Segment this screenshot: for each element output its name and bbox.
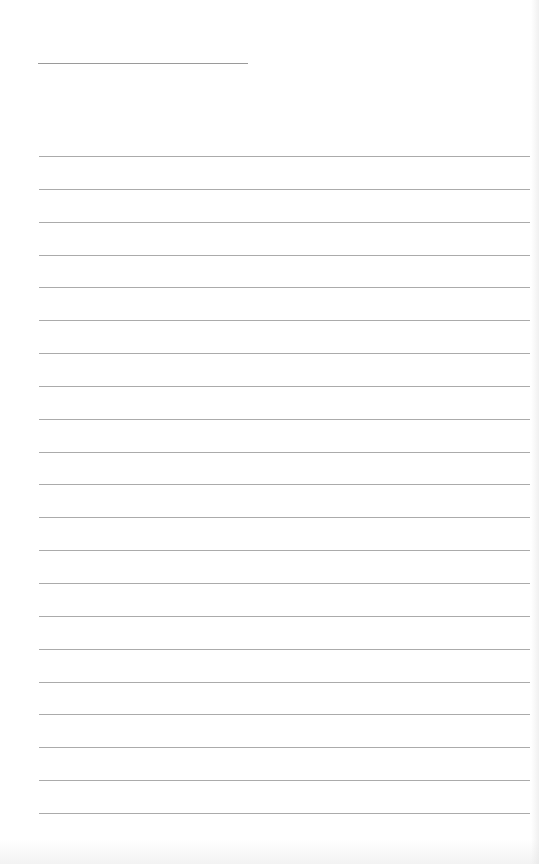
writing-line <box>39 386 530 419</box>
title-line <box>38 63 248 64</box>
writing-line <box>39 353 530 386</box>
page-edge-shadow-right <box>531 0 539 864</box>
writing-line <box>39 222 530 255</box>
writing-line <box>39 780 530 813</box>
page-edge-shadow-bottom <box>0 840 539 864</box>
writing-line <box>39 156 530 189</box>
writing-line <box>39 616 530 649</box>
writing-line <box>39 649 530 682</box>
writing-line <box>39 747 530 780</box>
writing-line <box>39 320 530 353</box>
writing-line <box>39 287 530 320</box>
writing-line <box>39 419 530 452</box>
writing-line <box>39 255 530 288</box>
writing-line <box>39 682 530 715</box>
writing-line <box>39 714 530 747</box>
writing-line <box>39 517 530 550</box>
writing-line <box>39 452 530 485</box>
writing-line <box>39 484 530 517</box>
writing-line <box>39 550 530 583</box>
writing-lines <box>39 156 530 846</box>
lined-paper-page <box>0 0 539 864</box>
writing-line <box>39 583 530 616</box>
writing-line <box>39 189 530 222</box>
